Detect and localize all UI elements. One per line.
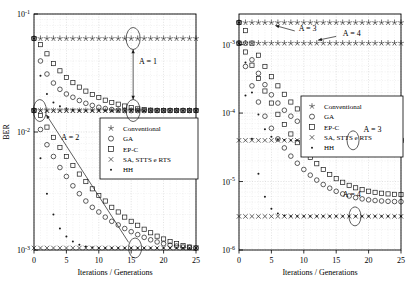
marker-dot xyxy=(52,213,54,215)
x-axis: 0510152025Iterations / Generations xyxy=(32,250,200,277)
marker-dot xyxy=(78,244,80,246)
chart-panel-left: 0510152025Iterations / Generations10-110… xyxy=(0,0,204,296)
marker-dot xyxy=(176,247,178,249)
marker-dot xyxy=(137,247,139,249)
marker-dot xyxy=(72,109,74,111)
marker-dot xyxy=(329,215,331,217)
marker-dot xyxy=(111,247,113,249)
marker-dot xyxy=(387,215,389,217)
y-tick-label: 10-3 xyxy=(222,39,235,49)
marker-dot xyxy=(244,95,246,97)
marker-dot xyxy=(270,136,272,138)
marker-dot xyxy=(104,247,106,249)
series-4 xyxy=(32,36,198,112)
legend-label: GA xyxy=(324,113,334,121)
x-tick-label: 15 xyxy=(332,256,340,265)
annotation-label: A = 3 xyxy=(364,125,382,134)
y-tick-exponent: -4 xyxy=(230,108,235,114)
x-axis: 0510152025Iterations / Generations xyxy=(237,250,405,277)
x-tick-label: 25 xyxy=(397,256,405,265)
annotation-arrow xyxy=(275,25,294,31)
marker-dot xyxy=(257,114,259,116)
x-tick-label: 10 xyxy=(95,256,103,265)
annotation-label: A = 3 xyxy=(299,24,317,33)
annotation-label: A = 4 xyxy=(343,29,361,38)
x-tick-label: 25 xyxy=(192,256,200,265)
marker-dot xyxy=(104,110,106,112)
marker-dot xyxy=(39,157,41,159)
annotation-label: A = 1 xyxy=(139,57,157,66)
y-tick-label: 10-2 xyxy=(17,127,30,137)
y-axis: 10-110-210-3BER xyxy=(2,9,38,255)
marker-dot xyxy=(124,247,126,249)
marker-dot xyxy=(72,241,74,243)
annotation-arrow xyxy=(131,49,134,99)
marker-dot xyxy=(303,215,305,217)
marker-dot xyxy=(59,105,61,107)
marker-dot xyxy=(156,247,158,249)
marker-dot xyxy=(98,247,100,249)
x-tick-label: 5 xyxy=(64,256,68,265)
marker-dot xyxy=(176,110,178,112)
marker-dot xyxy=(46,193,48,195)
legend-label: EP-C xyxy=(123,146,139,154)
marker-dot xyxy=(244,61,246,63)
marker-dot xyxy=(124,110,126,112)
marker-dot xyxy=(59,228,61,230)
marker-dot xyxy=(342,215,344,217)
marker-dot xyxy=(143,110,145,112)
series-2 xyxy=(32,36,199,113)
y-axis: 10-310-410-510-6 xyxy=(222,39,243,255)
legend: ConventionalGAEP-CSA, STTS e RTSHH xyxy=(100,118,198,179)
marker-dot xyxy=(290,139,292,141)
marker-dot xyxy=(296,139,298,141)
marker-dot xyxy=(309,215,311,217)
marker-dot xyxy=(182,110,184,112)
arrow-head xyxy=(131,49,134,53)
marker-dot xyxy=(277,213,279,215)
marker-dot xyxy=(368,215,370,217)
marker-dot xyxy=(130,247,132,249)
marker-dot xyxy=(283,215,285,217)
annotation-arrow xyxy=(318,36,336,41)
marker-square xyxy=(243,29,247,33)
marker-dot xyxy=(264,128,266,130)
y-tick-label: 10-5 xyxy=(222,176,235,186)
y-tick-exponent: -6 xyxy=(230,245,235,251)
arrow-head xyxy=(131,96,134,100)
legend-label: SA, STTS e RTS xyxy=(123,156,171,164)
x-axis-label: Iterations / Generations xyxy=(282,268,357,277)
marker-dot xyxy=(130,110,132,112)
marker-dot xyxy=(39,75,41,77)
marker-dot xyxy=(251,91,253,93)
figure-root: 0510152025Iterations / Generations10-110… xyxy=(0,0,409,296)
y-tick-label: 10-4 xyxy=(222,108,235,118)
annotation-label: A = 4 xyxy=(343,190,361,199)
marker-dot xyxy=(169,247,171,249)
x-tick-label: 5 xyxy=(269,256,273,265)
plot-right: 0510152025Iterations / Generations10-310… xyxy=(205,0,409,296)
marker-dot xyxy=(296,215,298,217)
marker-dot xyxy=(78,110,80,112)
x-tick-label: 20 xyxy=(365,256,373,265)
series-6 xyxy=(32,108,199,113)
marker-dot xyxy=(150,110,152,112)
x-tick-label: 0 xyxy=(32,256,36,265)
y-tick-exponent: -2 xyxy=(25,127,30,133)
marker-dot xyxy=(374,215,376,217)
marker-dot xyxy=(163,247,165,249)
marker-dot xyxy=(277,138,279,140)
marker-dot xyxy=(143,247,145,249)
series-8 xyxy=(33,37,197,111)
marker-dot xyxy=(322,215,324,217)
x-tick-label: 0 xyxy=(237,256,241,265)
y-tick-label: 10-3 xyxy=(17,245,30,255)
legend-label: Conventional xyxy=(324,103,362,111)
y-tick-exponent: -5 xyxy=(230,176,235,182)
marker-dot xyxy=(361,215,363,217)
marker-dot xyxy=(65,236,67,238)
marker-dot xyxy=(117,110,119,112)
y-axis-label: BER xyxy=(2,124,11,140)
x-tick-label: 20 xyxy=(160,256,168,265)
series-1 xyxy=(31,108,199,113)
